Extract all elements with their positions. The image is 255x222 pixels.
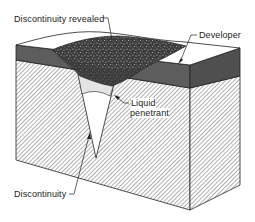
test-piece-side-face	[190, 76, 240, 210]
label-discontinuity: Discontinuity	[14, 189, 66, 199]
label-discontinuity-revealed: Discontinuity revealed	[14, 14, 104, 24]
label-developer: Developer	[199, 30, 241, 40]
label-liquid-penetrant-line1: Liquid	[131, 98, 156, 108]
label-liquid-penetrant-line2: penetrant	[130, 108, 169, 118]
